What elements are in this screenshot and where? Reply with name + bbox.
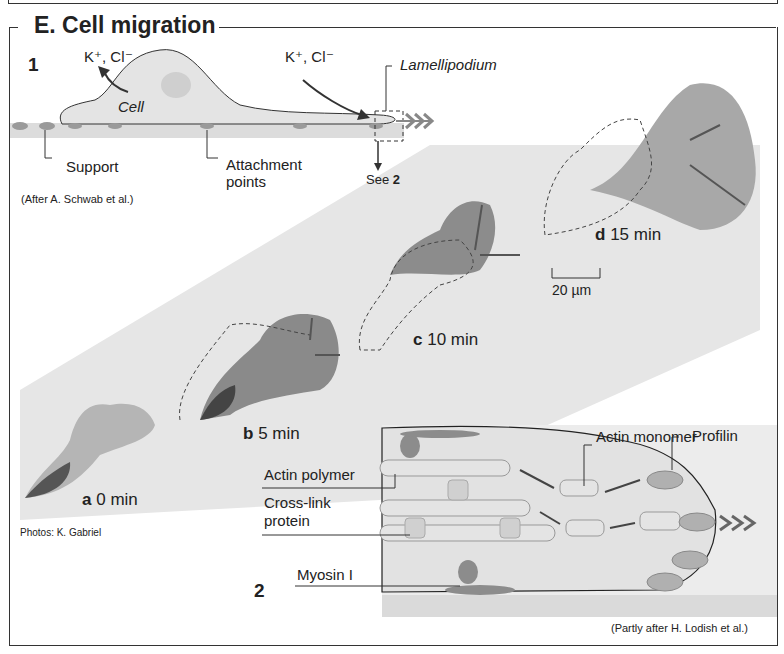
support-label: Support <box>66 158 119 175</box>
ions-right-label: K⁺, Cl⁻ <box>285 48 334 66</box>
ions-left-label: K⁺, Cl⁻ <box>84 48 133 66</box>
crosslink-label-2: protein <box>264 512 310 529</box>
frame-c-label: c 10 min <box>413 330 478 350</box>
photo-credit: Photos: K. Gabriel <box>20 527 101 538</box>
frame-d-label: d 15 min <box>595 225 661 245</box>
panel-2-credit: (Partly after H. Lodish et al.) <box>611 622 748 634</box>
panel-1-credit: (After A. Schwab et al.) <box>21 193 134 205</box>
attachment-label-2: points <box>226 173 266 190</box>
actin-polymer-label: Actin polymer <box>264 466 355 483</box>
see-label: See 2 <box>366 172 400 187</box>
cell-label: Cell <box>118 98 144 115</box>
see-ref: 2 <box>393 172 400 187</box>
see-text: See <box>366 172 389 187</box>
frame-a-label: a 0 min <box>82 490 138 510</box>
attachment-label-1: Attachment <box>226 156 302 173</box>
panel-1-number: 1 <box>28 54 39 76</box>
lamellipodium-label: Lamellipodium <box>400 56 497 73</box>
profilin-label: Profilin <box>692 427 738 444</box>
crosslink-label-1: Cross-link <box>264 494 331 511</box>
actin-monomer-label: Actin monomer <box>596 428 697 445</box>
scale-bar-label: 20 µm <box>552 282 591 298</box>
myosin-label: Myosin I <box>297 566 353 583</box>
frame-b-label: b 5 min <box>243 424 300 444</box>
panel-2-number: 2 <box>254 580 265 602</box>
